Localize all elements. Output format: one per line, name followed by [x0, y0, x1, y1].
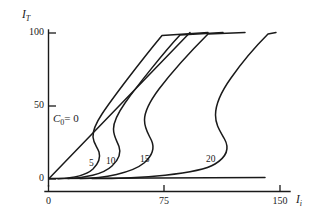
curve-label-10: 10 [106, 156, 116, 166]
curve-label-c0-0: C0= 0 [53, 112, 79, 127]
plot-svg [0, 0, 317, 215]
x-tick-label-150: 150 [267, 195, 293, 206]
curve-label-c0-equals: = 0 [64, 112, 78, 124]
figure-canvas: IT Ii 100 50 0 0 75 150 C0= 0 5 10 15 20 [0, 0, 317, 215]
curve-label-20: 20 [206, 154, 216, 164]
curve-label-15: 15 [140, 154, 150, 164]
curve-label-5: 5 [89, 158, 94, 168]
y-axis-label: IT [22, 8, 30, 23]
y-tick-label-100: 100 [10, 26, 44, 37]
y-axis-label-sub: T [26, 14, 30, 23]
x-tick-label-0: 0 [38, 195, 59, 206]
x-axis-label: Ii [296, 193, 302, 208]
curve-c0-5 [58, 33, 208, 179]
y-tick-label-0: 0 [10, 172, 44, 183]
x-axis-label-sub: i [300, 199, 302, 208]
x-tick-label-75: 75 [153, 195, 175, 206]
y-tick-label-50: 50 [10, 99, 44, 110]
